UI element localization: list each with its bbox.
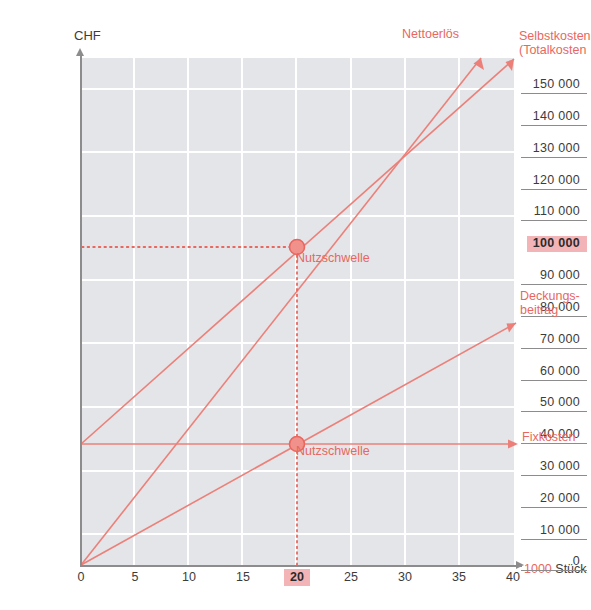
y-tick-label: 0 <box>567 554 587 570</box>
annotation-breakeven-bottom: Nutzschwelle <box>296 444 370 458</box>
y-tick-90000: 90 000 <box>507 265 587 285</box>
y-axis <box>80 55 82 567</box>
y-tick-label-highlighted: 100 000 <box>527 236 587 252</box>
y-tick-rule <box>521 220 587 221</box>
y-tick-120000: 120 000 <box>507 170 587 190</box>
x-tick-10: 10 <box>169 569 209 586</box>
y-tick-60000: 60 000 <box>507 361 587 381</box>
y-tick-10000: 10 000 <box>507 520 587 540</box>
y-tick-130000: 130 000 <box>507 138 587 158</box>
annotation-breakeven-top: Nutzschwelle <box>296 251 370 265</box>
series-label-deckungsbeitrag-line1: Deckungs- <box>520 289 580 303</box>
y-tick-label: 140 000 <box>527 109 587 125</box>
series-label-selbstkosten-line2: (Totalkosten <box>519 43 586 57</box>
series-label-deckungsbeitrag-line2: beitrag <box>520 303 558 317</box>
y-tick-label: 60 000 <box>534 364 587 380</box>
y-tick-label: 90 000 <box>534 268 587 284</box>
y-tick-100000-highlighted: 100 000 <box>507 233 587 252</box>
x-tick-label: 5 <box>126 569 145 586</box>
x-axis <box>80 565 522 567</box>
y-tick-rule <box>521 475 587 476</box>
y-tick-rule <box>521 93 587 94</box>
y-tick-rule <box>521 380 587 381</box>
x-tick-label: 25 <box>338 569 364 586</box>
y-axis-title: CHF <box>74 28 101 43</box>
x-tick-label: 0 <box>72 569 91 586</box>
x-tick-35: 35 <box>439 569 479 586</box>
x-tick-15: 15 <box>223 569 263 586</box>
y-tick-label: 50 000 <box>534 395 587 411</box>
y-tick-rule <box>521 539 587 540</box>
y-tick-50000: 50 000 <box>507 392 587 412</box>
y-tick-20000: 20 000 <box>507 488 587 508</box>
y-tick-30000: 30 000 <box>507 456 587 476</box>
y-tick-150000: 150 000 <box>507 74 587 94</box>
x-tick-25: 25 <box>331 569 371 586</box>
series-line-nettoerloes <box>81 58 481 565</box>
x-tick-30: 30 <box>385 569 425 586</box>
y-tick-label: 30 000 <box>534 459 587 475</box>
y-tick-rule <box>521 411 587 412</box>
series-label-fixkosten: Fixkosten <box>522 430 576 444</box>
y-tick-rule <box>521 284 587 285</box>
y-tick-rule <box>521 507 587 508</box>
y-tick-label: 70 000 <box>534 332 587 348</box>
x-tick-label-highlighted: 20 <box>284 569 310 586</box>
x-tick-40: 40 <box>493 569 533 586</box>
x-tick-0: 0 <box>61 569 101 586</box>
y-tick-label: 110 000 <box>528 204 587 220</box>
x-tick-20-highlighted: 20 <box>277 569 317 586</box>
y-tick-label: 150 000 <box>527 77 587 93</box>
y-tick-label: 20 000 <box>534 491 587 507</box>
x-tick-label: 10 <box>176 569 202 586</box>
y-tick-110000: 110 000 <box>507 201 587 221</box>
y-tick-rule <box>521 125 587 126</box>
x-tick-label: 30 <box>392 569 418 586</box>
y-axis-arrow-icon <box>76 48 84 56</box>
series-arrow-nettoerloes <box>474 58 485 70</box>
y-tick-label: 10 000 <box>534 523 587 539</box>
y-tick-label: 120 000 <box>527 173 587 189</box>
series-label-selbstkosten: Selbstkosten (Totalkosten <box>519 29 591 57</box>
x-tick-label: 35 <box>446 569 472 586</box>
x-tick-5: 5 <box>115 569 155 586</box>
y-tick-140000: 140 000 <box>507 106 587 126</box>
y-tick-0: 0 <box>507 551 587 571</box>
x-tick-label: 15 <box>230 569 256 586</box>
y-tick-rule <box>521 189 587 190</box>
series-label-selbstkosten-line1: Selbstkosten <box>519 29 591 43</box>
series-label-deckungsbeitrag: Deckungs- beitrag <box>520 289 580 317</box>
series-label-nettoerloes: Nettoerlös <box>402 27 459 41</box>
y-tick-rule <box>521 348 587 349</box>
y-tick-70000: 70 000 <box>507 329 587 349</box>
y-tick-label: 130 000 <box>527 141 587 157</box>
y-tick-rule <box>521 157 587 158</box>
x-tick-label: 40 <box>500 569 526 586</box>
